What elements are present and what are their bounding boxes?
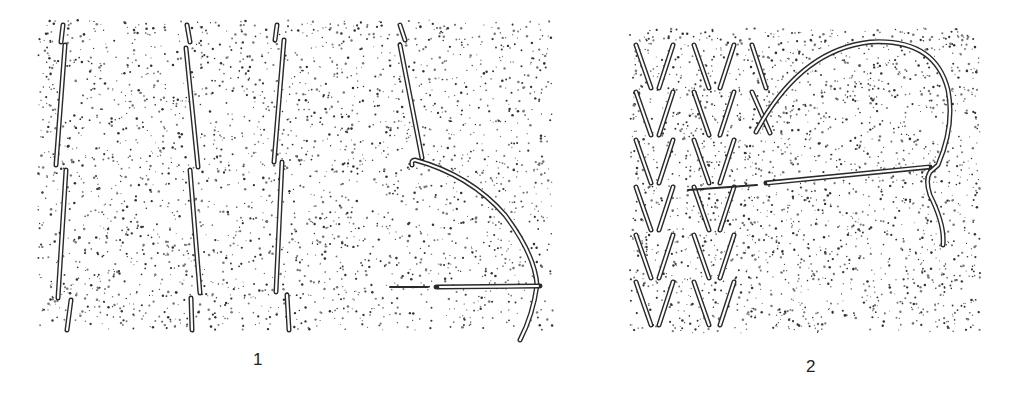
stitch-illustration xyxy=(0,0,1017,396)
figure-caption-2: 2 xyxy=(806,357,815,377)
panel-1-thread xyxy=(412,160,537,340)
panel-1-needle xyxy=(390,286,540,287)
figure-caption-1: 1 xyxy=(253,350,262,370)
